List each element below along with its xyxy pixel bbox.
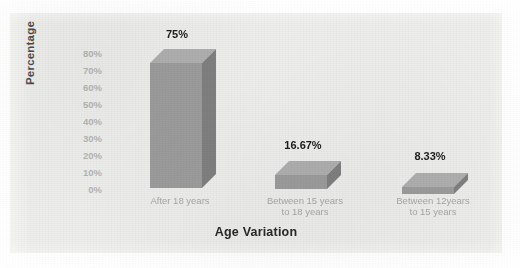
bar-value-label-2: 16.67%	[255, 139, 351, 151]
scanned-chart-image: Percentage 80% 70% 60% 50% 40% 30% 20% 1…	[0, 0, 520, 268]
bar-value-label-3: 8.33%	[382, 150, 478, 162]
bar-between-15-and-18-years[interactable]	[275, 161, 341, 189]
bar-front-face-1	[150, 63, 202, 188]
x-category-label-2: Between 15 years to 18 years	[242, 195, 368, 217]
bar-side-face-2	[327, 161, 341, 189]
bar-front-face-2	[275, 175, 327, 189]
bar-between-12-and-15-years[interactable]	[402, 173, 468, 194]
y-tick-20: 20%	[83, 151, 102, 161]
y-axis-ticks: 80% 70% 60% 50% 40% 30% 20% 10% 0%	[52, 49, 102, 201]
y-tick-10: 10%	[83, 168, 102, 178]
y-tick-30: 30%	[83, 134, 102, 144]
y-tick-80: 80%	[83, 49, 102, 59]
y-tick-50: 50%	[83, 100, 102, 110]
y-tick-70: 70%	[83, 66, 102, 76]
y-tick-60: 60%	[83, 83, 102, 93]
y-axis-title: Percentage	[24, 0, 36, 85]
bar-front-face-3	[402, 187, 454, 194]
x-category-label-3: Between 12years to 15 years	[370, 195, 496, 217]
x-axis-title: Age Variation	[10, 225, 502, 239]
y-tick-0: 0%	[88, 185, 102, 195]
bar-side-face-3	[454, 173, 468, 194]
bar-side-face-1	[202, 49, 216, 188]
y-tick-40: 40%	[83, 117, 102, 127]
bar-value-label-1: 75%	[132, 28, 222, 40]
x-category-label-1: After 18 years	[120, 195, 240, 206]
bar-after-18-years[interactable]	[150, 49, 216, 188]
plot-area: Percentage 80% 70% 60% 50% 40% 30% 20% 1…	[10, 13, 502, 253]
